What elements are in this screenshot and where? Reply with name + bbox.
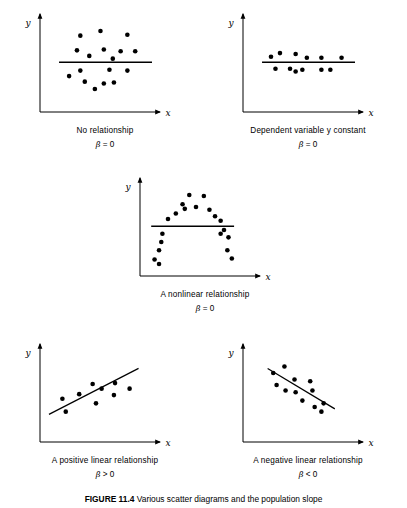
figure-caption-label: FIGURE 11.4 [85, 494, 135, 504]
data-point [187, 193, 192, 198]
data-point [152, 257, 157, 262]
data-point [292, 377, 297, 382]
scatter-plot-negative-linear-relationship: yx [213, 338, 363, 456]
data-point [75, 48, 80, 53]
data-point [312, 405, 317, 410]
data-point [125, 68, 130, 73]
panel-beta-label: β = 0 [10, 139, 200, 151]
data-point [300, 67, 305, 72]
panel-beta-label: β = 0 [110, 303, 300, 315]
data-point [112, 393, 117, 398]
data-point [218, 219, 223, 224]
panel-beta-label: β = 0 [213, 139, 403, 151]
scatter-plot-nonlinear-relationship: yx [110, 172, 260, 290]
scatter-panel-positive-linear-relationship: yxA positive linear relationshipβ > 0 [10, 338, 200, 481]
data-point [78, 33, 83, 38]
data-point [127, 386, 132, 391]
figure-caption: FIGURE 11.4 Various scatter diagrams and… [0, 494, 407, 508]
panel-title: A positive linear relationship [10, 456, 200, 466]
data-point [319, 55, 324, 60]
data-point [90, 382, 95, 387]
data-point [67, 74, 72, 79]
data-points [67, 29, 138, 92]
data-point [107, 67, 112, 72]
data-point [319, 409, 324, 414]
data-point [273, 66, 278, 71]
data-point [98, 29, 103, 34]
data-point [293, 52, 298, 57]
data-point [99, 386, 104, 391]
data-point [207, 207, 212, 212]
data-point [310, 388, 315, 393]
data-point [293, 390, 298, 395]
data-point [305, 55, 310, 60]
panel-beta-label: β < 0 [213, 469, 403, 481]
x-axis-label: x [265, 272, 270, 282]
data-point [319, 67, 324, 72]
data-points [271, 364, 326, 414]
beta-value: = 0 [303, 140, 317, 149]
data-point [339, 55, 344, 60]
panel-title: Dependent variable y constant [213, 126, 403, 136]
scatter-plot-no-relationship: yx [10, 8, 160, 126]
data-point [274, 383, 279, 388]
beta-value: = 0 [100, 140, 114, 149]
data-point [102, 47, 107, 52]
data-point [202, 194, 207, 199]
data-point [83, 79, 88, 84]
data-point [157, 248, 162, 253]
data-point [78, 68, 83, 73]
data-point [271, 371, 276, 376]
data-point [94, 401, 99, 406]
data-point [300, 398, 305, 403]
data-point [222, 228, 227, 233]
panel-title: A nonlinear relationship [110, 290, 300, 300]
data-point [125, 32, 130, 37]
x-axis-label: x [165, 438, 170, 448]
data-point [293, 69, 298, 74]
panel-title: No relationship [10, 126, 200, 136]
data-point [183, 207, 188, 212]
data-point [174, 211, 179, 216]
y-axis-label: y [24, 348, 31, 358]
scatter-panel-negative-linear-relationship: yxA negative linear relationshipβ < 0 [213, 338, 403, 481]
data-point [160, 231, 165, 236]
data-points [60, 381, 132, 414]
beta-value: = 0 [200, 304, 214, 313]
data-point [60, 396, 65, 401]
scatter-panel-no-relationship: yxNo relationshipβ = 0 [10, 8, 200, 151]
data-point [111, 56, 116, 61]
data-point [113, 381, 118, 386]
x-axis-label: x [165, 108, 170, 118]
data-point [166, 217, 171, 222]
data-point [321, 401, 326, 406]
data-point [63, 409, 68, 414]
data-point [93, 87, 98, 92]
data-point [213, 214, 218, 219]
data-point [159, 240, 164, 245]
data-point [118, 49, 123, 54]
beta-value: > 0 [100, 470, 114, 479]
data-point [87, 54, 92, 59]
data-point [102, 81, 107, 86]
y-axis-label: y [24, 18, 31, 28]
data-point [328, 67, 333, 72]
data-point [288, 66, 293, 71]
data-point [194, 205, 199, 210]
scatter-plot-dependent-variable-constant: yx [213, 8, 363, 126]
figure-caption-body: Various scatter diagrams and the populat… [137, 494, 323, 504]
x-axis-label: x [368, 438, 373, 448]
y-axis-label: y [124, 182, 131, 192]
fit-line [49, 368, 139, 414]
data-point [230, 256, 235, 261]
data-point [157, 262, 162, 267]
data-point [278, 51, 283, 56]
figure-root: yxNo relationshipβ = 0 yxDependent varia… [0, 0, 407, 508]
scatter-plot-positive-linear-relationship: yx [10, 338, 160, 456]
data-point [133, 49, 138, 54]
data-point [225, 248, 230, 253]
y-axis-label: y [227, 18, 234, 28]
scatter-panel-dependent-variable-constant: yxDependent variable y constantβ = 0 [213, 8, 403, 151]
data-point [308, 379, 313, 384]
scatter-panel-nonlinear-relationship: yxA nonlinear relationshipβ = 0 [110, 172, 300, 315]
